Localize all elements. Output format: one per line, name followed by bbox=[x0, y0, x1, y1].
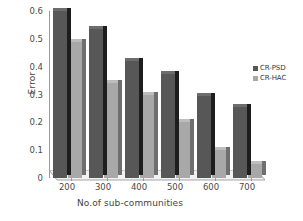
bar-group bbox=[121, 11, 157, 178]
y-tick-label: 0.4 bbox=[29, 62, 43, 72]
bar-side-3d bbox=[190, 119, 194, 175]
bar-top-3d bbox=[197, 93, 211, 96]
bar-cr-psd-200 bbox=[53, 11, 67, 178]
bar-top-3d bbox=[233, 104, 247, 107]
y-tick-label: 0 bbox=[38, 173, 43, 183]
bar-top-3d bbox=[161, 71, 175, 74]
bar-cr-psd-700 bbox=[233, 107, 247, 178]
bar-face bbox=[125, 61, 139, 178]
bar-cr-psd-500 bbox=[161, 74, 175, 178]
bar-side-3d bbox=[67, 8, 71, 175]
x-tick-label: 700 bbox=[239, 182, 255, 192]
y-tick-label: 0.3 bbox=[29, 90, 43, 100]
bar-side-3d bbox=[154, 92, 158, 176]
y-axis-ticks: 00.10.20.30.40.50.6 bbox=[22, 0, 46, 221]
bar-group bbox=[229, 11, 265, 178]
bar-side-3d bbox=[82, 39, 86, 175]
bar-side-3d bbox=[139, 58, 143, 175]
legend-label: CR-HAC bbox=[260, 74, 286, 82]
x-tick-label: 400 bbox=[131, 182, 147, 192]
x-axis-ticks: 200300400500600700 bbox=[49, 182, 265, 196]
x-tick-label: 200 bbox=[59, 182, 75, 192]
y-tick-label: 0.1 bbox=[29, 145, 43, 155]
bar-cr-psd-600 bbox=[197, 96, 211, 178]
bar-face bbox=[89, 29, 103, 178]
legend-swatch-icon bbox=[253, 76, 258, 81]
bar-side-3d bbox=[211, 93, 215, 175]
legend-item-cr-hac: CR-HAC bbox=[253, 74, 303, 82]
bar-group bbox=[85, 11, 121, 178]
x-axis-title: No.of sub-communities bbox=[0, 198, 260, 208]
bar-side-3d bbox=[118, 80, 122, 175]
y-tick-label: 0.6 bbox=[29, 6, 43, 16]
x-tick-label: 600 bbox=[203, 182, 219, 192]
chart-legend: CR-PSDCR-HAC bbox=[253, 64, 303, 84]
bar-face bbox=[53, 11, 67, 178]
bar-cr-psd-400 bbox=[125, 61, 139, 178]
x-tick-label: 300 bbox=[95, 182, 111, 192]
bar-top-3d bbox=[89, 26, 103, 29]
legend-swatch-icon bbox=[253, 66, 258, 71]
bar-side-3d bbox=[103, 26, 107, 175]
plot-area bbox=[49, 11, 265, 178]
bar-side-3d bbox=[175, 71, 179, 175]
bar-group bbox=[193, 11, 229, 178]
bar-chart: Error 00.10.20.30.40.50.6 20030040050060… bbox=[0, 0, 303, 221]
bar-cr-psd-300 bbox=[89, 29, 103, 178]
bar-face bbox=[197, 96, 211, 178]
bar-group bbox=[49, 11, 85, 178]
y-tick-label: 0.2 bbox=[29, 117, 43, 127]
bar-face bbox=[233, 107, 247, 178]
x-tick-label: 500 bbox=[167, 182, 183, 192]
bar-side-3d bbox=[226, 147, 230, 175]
bar-face bbox=[161, 74, 175, 178]
legend-item-cr-psd: CR-PSD bbox=[253, 64, 303, 72]
bar-top-3d bbox=[125, 58, 139, 61]
legend-label: CR-PSD bbox=[260, 64, 285, 72]
bar-top-3d bbox=[53, 8, 67, 11]
y-tick-label: 0.5 bbox=[29, 34, 43, 44]
bar-side-3d bbox=[247, 104, 251, 175]
bar-group bbox=[157, 11, 193, 178]
bar-side-3d bbox=[262, 161, 266, 175]
